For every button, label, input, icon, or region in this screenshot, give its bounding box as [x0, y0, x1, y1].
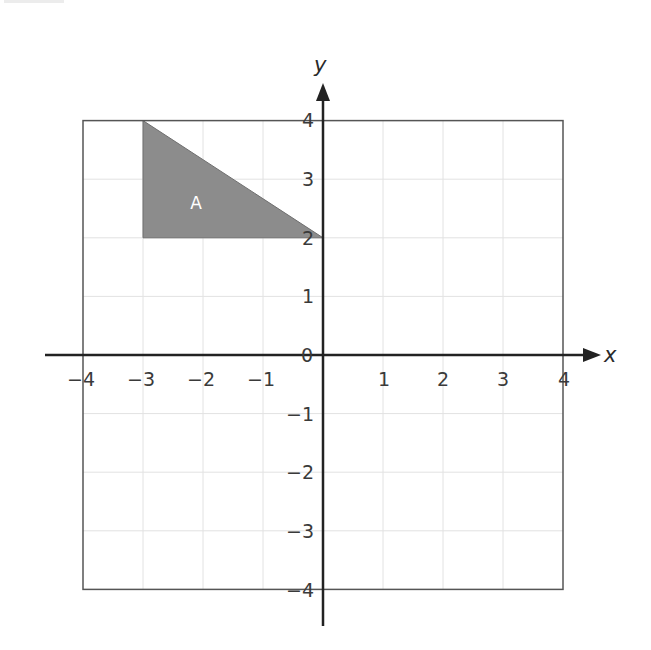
- y-tick-label: 2: [302, 227, 314, 249]
- x-tick-label: −3: [127, 368, 155, 390]
- y-tick-label: −4: [286, 579, 314, 601]
- y-tick-label: 1: [302, 285, 314, 307]
- y-tick-label: −2: [286, 461, 314, 483]
- y-axis-arrow-icon: [316, 83, 330, 101]
- y-tick-label: −1: [286, 403, 314, 425]
- x-tick-label: 2: [437, 368, 449, 390]
- x-tick-label: 4: [558, 368, 570, 390]
- x-tick-label: −2: [187, 368, 215, 390]
- coordinate-plane: A x y 0 −4 −3 −2 −1 1 2 3 4 4 3 2 1 −1 −…: [0, 0, 651, 650]
- x-tick-labels: −4 −3 −2 −1 1 2 3 4: [67, 368, 570, 390]
- y-tick-label: 4: [302, 109, 314, 131]
- x-tick-label: −1: [247, 368, 275, 390]
- x-tick-label: 3: [497, 368, 509, 390]
- x-axis-arrow-icon: [583, 348, 601, 362]
- y-tick-label: 3: [302, 168, 314, 190]
- y-tick-label: −3: [286, 520, 314, 542]
- origin-label: 0: [301, 344, 313, 366]
- y-axis-label: y: [313, 53, 327, 77]
- x-tick-label: 1: [378, 368, 390, 390]
- triangle-a-label: A: [190, 193, 202, 213]
- x-tick-label: −4: [67, 368, 95, 390]
- x-axis-label: x: [603, 343, 617, 367]
